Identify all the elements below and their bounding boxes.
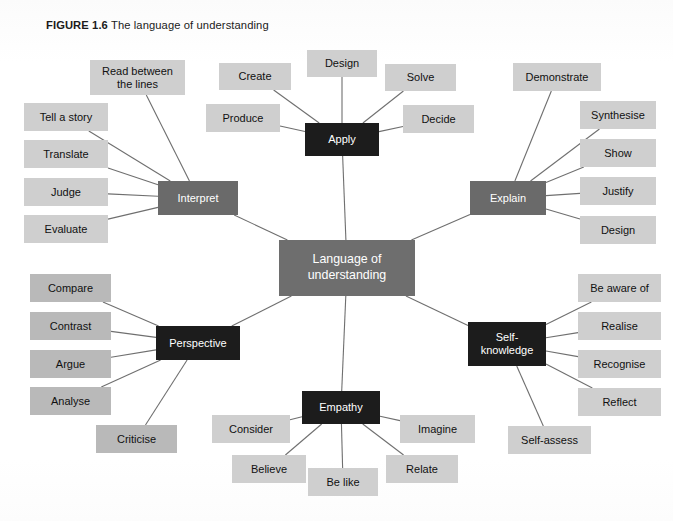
branch-node-interpret: Interpret bbox=[158, 181, 238, 215]
leaf-node-interpret-tell-a-story: Tell a story bbox=[24, 103, 108, 131]
leaf-node-perspective-analyse: Analyse bbox=[30, 387, 111, 415]
figure-1-6-container: FIGURE 1.6 The language of understanding… bbox=[0, 0, 673, 521]
leaf-node-apply-decide: Decide bbox=[403, 105, 474, 133]
leaf-node-explain-show: Show bbox=[580, 139, 656, 167]
leaf-node-perspective-contrast: Contrast bbox=[30, 312, 111, 340]
leaf-node-empathy-imagine: Imagine bbox=[400, 415, 475, 443]
leaf-node-explain-demonstrate: Demonstrate bbox=[513, 63, 601, 91]
branch-node-apply: Apply bbox=[305, 123, 379, 156]
leaf-node-apply-solve: Solve bbox=[385, 64, 456, 91]
leaf-node-empathy-believe: Believe bbox=[232, 455, 306, 483]
leaf-node-interpret-evaluate: Evaluate bbox=[24, 215, 108, 243]
leaf-node-self-knowledge-self-assess: Self-assess bbox=[508, 426, 591, 454]
leaf-node-self-knowledge-be-aware-of: Be aware of bbox=[578, 274, 661, 302]
leaf-node-apply-create: Create bbox=[219, 63, 291, 90]
leaf-node-perspective-compare: Compare bbox=[30, 274, 111, 302]
leaf-node-apply-produce: Produce bbox=[206, 104, 280, 132]
leaf-node-self-knowledge-recognise: Recognise bbox=[578, 350, 661, 378]
leaf-node-self-knowledge-realise: Realise bbox=[578, 312, 661, 340]
leaf-node-explain-synthesise: Synthesise bbox=[580, 101, 656, 129]
leaf-node-interpret-judge: Judge bbox=[24, 178, 108, 206]
leaf-node-explain-justify: Justify bbox=[580, 177, 656, 205]
leaf-node-apply-design: Design bbox=[307, 50, 377, 77]
leaf-node-interpret-translate: Translate bbox=[24, 140, 108, 168]
leaf-node-empathy-be-like: Be like bbox=[308, 468, 378, 496]
center-node-language-of-understanding: Language of understanding bbox=[279, 240, 415, 296]
leaf-node-empathy-consider: Consider bbox=[212, 415, 290, 443]
leaf-node-perspective-criticise: Criticise bbox=[96, 425, 177, 453]
leaf-node-perspective-argue: Argue bbox=[30, 350, 111, 378]
leaf-node-explain-design: Design bbox=[580, 216, 656, 244]
leaf-node-self-knowledge-reflect: Reflect bbox=[578, 388, 661, 416]
branch-node-perspective: Perspective bbox=[156, 326, 240, 360]
leaf-node-interpret-read-between-the-lines: Read between the lines bbox=[90, 60, 185, 95]
branch-node-explain: Explain bbox=[470, 181, 546, 215]
branch-node-self-knowledge: Self- knowledge bbox=[468, 322, 546, 366]
branch-node-empathy: Empathy bbox=[302, 391, 380, 424]
leaf-node-empathy-relate: Relate bbox=[386, 455, 458, 483]
